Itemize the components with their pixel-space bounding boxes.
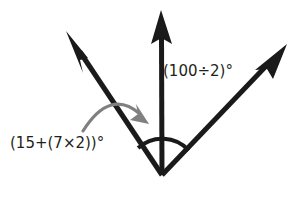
angle-diagram-canvas <box>0 0 296 197</box>
angle-diagram: (100÷2)° (15+(7×2))° <box>0 0 296 197</box>
left-angle-label: (15+(7×2))° <box>10 136 104 151</box>
vertical-ray-shaft <box>162 38 163 175</box>
left-ray-arrowhead-icon <box>66 31 88 73</box>
right-angle-label: (100÷2)° <box>163 64 233 79</box>
left-ray-shaft <box>80 52 162 175</box>
right-ray-shaft <box>162 64 268 175</box>
vertical-ray <box>151 10 172 175</box>
